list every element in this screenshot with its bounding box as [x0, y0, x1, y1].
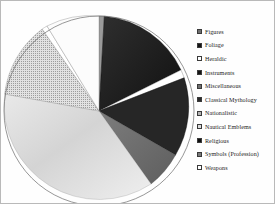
legend-item-miscellaneous: Miscellaneous	[197, 79, 275, 93]
legend-item-classical-mythology: Classical Mythology	[197, 93, 275, 107]
legend-item-instruments: Instruments	[197, 66, 275, 80]
legend-swatch-foliage	[197, 43, 202, 48]
legend-label-weapons: Weapons	[205, 164, 228, 172]
legend-item-symbols-profession: Symbols (Profession)	[197, 147, 275, 161]
legend-item-foliage: Foliage	[197, 39, 275, 53]
legend-swatch-miscellaneous	[197, 84, 202, 89]
legend-label-classical-mythology: Classical Mythology	[205, 96, 257, 104]
legend-label-foliage: Foliage	[205, 41, 224, 49]
legend-swatch-heraldic	[197, 56, 202, 61]
legend-swatch-figures	[197, 29, 202, 34]
legend-label-heraldic: Heraldic	[205, 55, 226, 63]
legend-swatch-classical-mythology	[197, 97, 202, 102]
chart-figure: Figures Foliage Heraldic Instruments Mis…	[0, 0, 275, 204]
legend-item-nationalistic: Nationalistic	[197, 107, 275, 121]
legend-label-symbols-profession: Symbols (Profession)	[205, 150, 259, 158]
pie-slices	[4, 16, 194, 204]
pie-chart	[1, 1, 197, 204]
legend-item-heraldic: Heraldic	[197, 52, 275, 66]
legend-label-instruments: Instruments	[205, 69, 234, 77]
legend-swatch-weapons	[197, 165, 202, 170]
legend-swatch-instruments	[197, 70, 202, 75]
legend-swatch-nationalistic	[197, 111, 202, 116]
pie-chart-svg	[1, 1, 197, 204]
legend-item-nautical-emblems: Nautical Emblems	[197, 120, 275, 134]
legend-item-figures: Figures	[197, 25, 275, 39]
legend-item-weapons: Weapons	[197, 161, 275, 175]
legend-swatch-nautical-emblems	[197, 124, 202, 129]
chart-legend: Figures Foliage Heraldic Instruments Mis…	[197, 25, 275, 175]
legend-label-nautical-emblems: Nautical Emblems	[205, 123, 251, 131]
legend-label-religious: Religious	[205, 137, 229, 145]
legend-item-religious: Religious	[197, 134, 275, 148]
legend-swatch-symbols-profession	[197, 152, 202, 157]
legend-label-figures: Figures	[205, 28, 224, 36]
legend-label-nationalistic: Nationalistic	[205, 109, 237, 117]
legend-label-miscellaneous: Miscellaneous	[205, 82, 241, 90]
legend-swatch-religious	[197, 138, 202, 143]
